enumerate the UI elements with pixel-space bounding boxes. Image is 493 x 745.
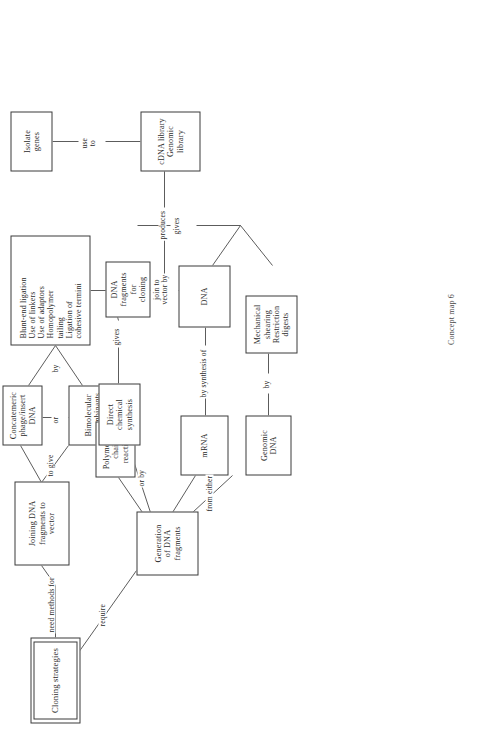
link-root-generation [78, 570, 136, 652]
edge-label-produces: produces [158, 209, 166, 240]
diagram-canvas: Cloning strategies Joining DNA fragments… [0, 0, 493, 745]
edge-label-use-to: use to [80, 136, 97, 149]
node-joining-dna-fragments-to-vector[interactable]: Joining DNA fragments to vector [14, 481, 69, 565]
edge-label-from-either: from either [205, 474, 213, 512]
connector-lines [0, 0, 493, 745]
edge-label-gives-synthesis: gives [112, 327, 120, 346]
edge-label-gives-fragments: gives [172, 216, 180, 235]
edge-label-by-digest: by [262, 379, 270, 389]
edge-label-or-by: or by [137, 468, 145, 487]
node-library[interactable]: cDNA library Genomic library [140, 111, 200, 171]
node-mrna[interactable]: mRNA [180, 415, 228, 475]
edge-label-to-give: to give [46, 453, 54, 477]
figure-caption: Concept map 6 [447, 294, 456, 345]
node-concatemeric-phage-insert-dna[interactable]: Concatemeric phage/insert DNA [2, 385, 42, 445]
node-cloning-strategies-label: Cloning strategies [33, 641, 77, 719]
link-generation-mrna [172, 475, 195, 512]
node-genomic-dna[interactable]: Genomic DNA [245, 415, 291, 475]
node-generation-of-dna-fragments[interactable]: Generation of DNA fragments [136, 511, 198, 575]
edge-label-need-methods-for: need methods for [47, 576, 55, 633]
node-cloning-strategies[interactable]: Cloning strategies [30, 637, 80, 723]
edge-label-by: by [51, 363, 59, 373]
edge-label-or: or [51, 415, 59, 424]
concept-map-page: Cloning strategies Joining DNA fragments… [0, 0, 493, 745]
link-joining-concatemeric [20, 445, 41, 482]
link-shearing-junction [240, 225, 272, 265]
node-mechanical-shearing-restriction-digests[interactable]: Mechanical shearing Restriction digests [245, 295, 297, 353]
node-isolate-genes[interactable]: Isolate genes [10, 111, 52, 171]
node-dna-fragments-for-cloning[interactable]: DNA fragments for cloning [105, 261, 150, 317]
edge-label-join-to-vector-by: join to vector by [152, 273, 169, 305]
node-direct-chemical-synthesis[interactable]: Direct chemical synthesis [98, 383, 140, 445]
edge-label-by-synthesis-of: by synthesis of [199, 348, 207, 398]
edge-label-require: require [98, 602, 106, 627]
node-dna[interactable]: DNA [178, 265, 230, 327]
node-ligation-methods[interactable]: Blunt-end ligation Use of linkers Use of… [10, 235, 90, 345]
link-dna-junction [212, 225, 240, 265]
